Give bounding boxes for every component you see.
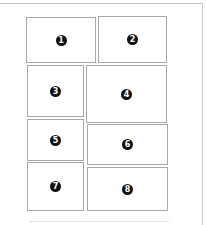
number-badge-5: 5	[50, 135, 61, 146]
panel-8: 8	[87, 167, 168, 211]
panel-2: 2	[98, 16, 167, 63]
number-badge-8: 8	[122, 184, 133, 195]
caption-line	[30, 221, 170, 225]
panel-5: 5	[27, 119, 84, 161]
number-badge-7: 7	[50, 181, 61, 192]
panel-6: 6	[87, 124, 168, 165]
number-badge-3: 3	[50, 86, 61, 97]
number-badge-6: 6	[122, 139, 133, 150]
panel-4: 4	[86, 65, 167, 123]
panel-3: 3	[27, 65, 84, 117]
panel-7: 7	[27, 162, 84, 211]
panel-1: 1	[26, 17, 96, 63]
number-badge-1: 1	[56, 35, 67, 46]
number-badge-2: 2	[127, 34, 138, 45]
number-badge-4: 4	[121, 89, 132, 100]
